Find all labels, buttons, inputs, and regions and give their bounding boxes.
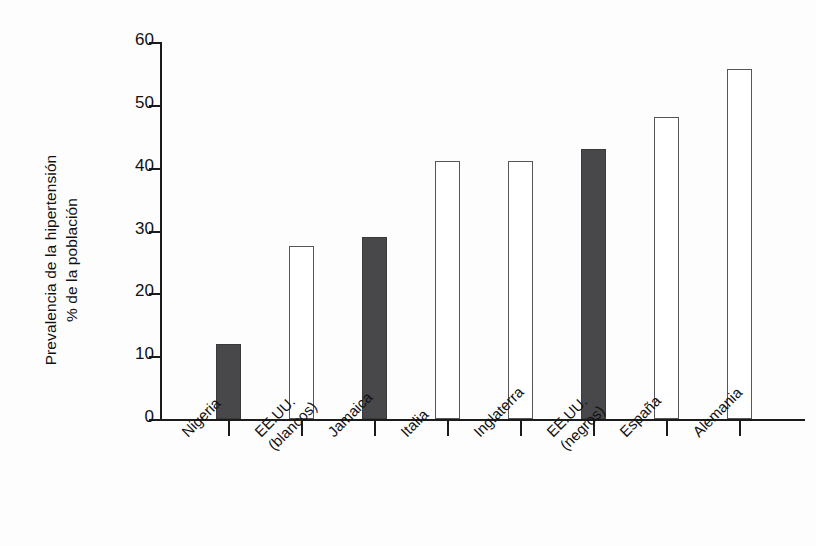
bar-inglaterra <box>508 161 533 419</box>
y-tick-label: 30 <box>135 219 154 239</box>
y-tick-label: 20 <box>135 281 154 301</box>
y-tick-label: 0 <box>145 407 154 427</box>
y-tick-label: 50 <box>135 93 154 113</box>
plot-area: 0102030405060 <box>160 42 805 420</box>
x-axis-category-labels: NigeriaEE.UU.(blancos)JamaicaItaliaIngla… <box>160 424 816 544</box>
bar-espa-a <box>654 117 679 419</box>
y-tick-label: 40 <box>135 156 154 176</box>
y-axis-title-line-1: Prevalencia de la hipertensión <box>41 155 62 366</box>
y-axis-title-line-2: % de la población <box>62 198 83 322</box>
bar-chart-figure: Prevalencia de la hipertensión % de la p… <box>0 0 816 546</box>
y-tick-label: 10 <box>135 344 154 364</box>
bar-italia <box>435 161 460 419</box>
bar-alemania <box>727 69 752 419</box>
y-tick-label: 60 <box>135 30 154 50</box>
bar-ee-uu-negros <box>581 149 606 419</box>
y-axis-line <box>160 42 162 421</box>
y-axis-title: Prevalencia de la hipertensión % de la p… <box>34 90 90 430</box>
